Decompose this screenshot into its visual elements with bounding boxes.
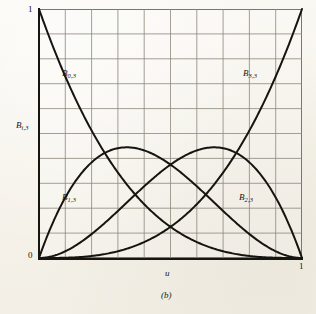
y-axis-title-subscript: i,3: [22, 124, 29, 131]
curve-b23: [39, 147, 302, 258]
curve-b33: [39, 9, 302, 258]
curve-label-b03-subscript: 0,3: [68, 72, 77, 79]
plot-area: [39, 9, 302, 258]
figure-page: Bi,3 1 0 1: [0, 0, 316, 314]
y-axis-tick-max: 1: [28, 5, 33, 14]
x-axis-tick-max: 1: [299, 262, 304, 271]
curve-b03: [39, 9, 302, 258]
figure-caption: (b): [161, 290, 172, 300]
x-axis-title: u: [165, 268, 170, 278]
y-axis-tick-min: 0: [28, 251, 33, 260]
x-axis-line: [38, 258, 303, 260]
y-axis-title: Bi,3: [16, 120, 29, 131]
bernstein-curves: [39, 9, 302, 258]
curve-label-b23-subscript: 2,3: [245, 196, 254, 203]
curve-label-b03: B0,3: [62, 69, 76, 79]
curve-label-b23: B2,3: [239, 193, 253, 203]
curve-label-b13: B1,3: [62, 193, 76, 203]
curve-label-b33-subscript: 3,3: [249, 72, 258, 79]
curve-label-b13-subscript: 1,3: [68, 196, 77, 203]
curve-label-b33: B3,3: [243, 69, 257, 79]
y-axis-line: [38, 8, 40, 259]
